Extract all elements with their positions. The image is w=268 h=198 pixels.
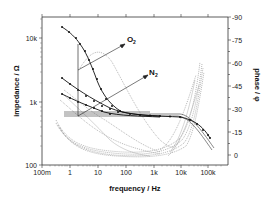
x-tick-100: 100 — [120, 169, 132, 176]
y-right-tick-neg30: -30 — [232, 106, 242, 113]
impedance-flat-lines — [64, 112, 214, 150]
y-right-ticks — [228, 17, 231, 155]
x-axis-ticks — [42, 14, 208, 168]
y-right-tick-neg15: -15 — [232, 129, 242, 136]
y-right-tick-neg45: -45 — [232, 83, 242, 90]
y-right-tick-neg75: -75 — [232, 37, 242, 44]
impedance-phase-chart: 100m 1 10 100 1k 10k 100k 100 1k 10k -90… — [0, 0, 268, 198]
impedance-curves-marked — [62, 27, 210, 138]
x-tick-labels: 100m 1 10 100 1k 10k 100k — [33, 169, 216, 176]
annotation-o2: O 2 — [127, 35, 136, 45]
x-tick-100k: 100k — [200, 169, 216, 176]
x-tick-10: 10 — [94, 169, 102, 176]
y-tick-10k: 10k — [26, 35, 38, 42]
y-right-tick-0: 0 — [234, 152, 238, 159]
x-tick-1k: 1k — [150, 169, 158, 176]
annotation-n2-sub: 2 — [155, 72, 158, 78]
phase-curves-light — [64, 80, 199, 156]
x-axis-title: frequency / Hz — [109, 184, 161, 193]
y-right-tick-neg60: -60 — [232, 60, 242, 67]
y-right-axis-title: phase / φ — [253, 68, 262, 102]
y-left-tick-labels: 100 1k 10k — [25, 35, 37, 169]
impedance-markers — [61, 26, 211, 139]
y-right-tick-neg90: -90 — [232, 14, 242, 21]
y-tick-1k: 1k — [30, 99, 38, 106]
x-tick-10k: 10k — [175, 169, 187, 176]
y-left-axis-title: impedance / Ω — [12, 65, 21, 116]
x-tick-1: 1 — [68, 169, 72, 176]
x-tick-100m: 100m — [33, 169, 51, 176]
annotation-n2: N 2 — [149, 68, 158, 78]
annotation-o2-sub: 2 — [133, 39, 136, 45]
y-tick-100: 100 — [25, 162, 37, 169]
y-right-tick-labels: -90 -75 -60 -45 -30 -15 0 — [232, 14, 242, 159]
